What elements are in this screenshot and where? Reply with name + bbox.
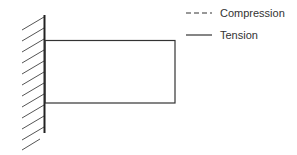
legend-tension-label: Tension [220,29,258,41]
wall-hatching [22,17,44,150]
legend-compression-label: Compression [220,7,285,19]
cantilever-diagram [0,0,297,155]
beam [45,41,175,104]
